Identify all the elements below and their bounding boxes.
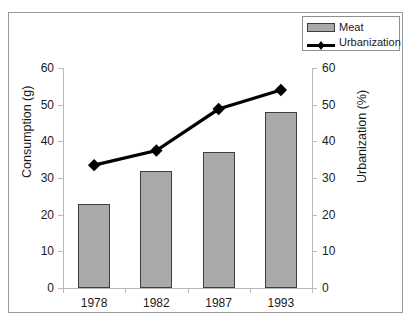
y-tick-label-right: 0 bbox=[322, 282, 329, 294]
y-tick-label-left: 30 bbox=[41, 172, 54, 184]
urbanization-line-path bbox=[94, 90, 281, 165]
y-tick-label-right: 10 bbox=[322, 245, 335, 257]
y-tick-right bbox=[312, 215, 317, 216]
y-tick-right bbox=[312, 141, 317, 142]
x-axis-label-1978: 1978 bbox=[81, 296, 108, 310]
y-tick-label-left: 20 bbox=[41, 209, 54, 221]
y-tick-label-left: 40 bbox=[41, 135, 54, 147]
chart-legend: Meat Urbanization bbox=[302, 16, 400, 51]
urbanization-marker-1993 bbox=[275, 84, 287, 96]
y-tick-label-left: 0 bbox=[47, 282, 54, 294]
y-tick-label-left: 60 bbox=[41, 62, 54, 74]
x-axis-label-1993: 1993 bbox=[268, 296, 295, 310]
y-tick-right bbox=[312, 178, 317, 179]
y-tick-label-right: 20 bbox=[322, 209, 335, 221]
x-tick bbox=[63, 288, 64, 293]
y-tick-label-right: 60 bbox=[322, 62, 335, 74]
x-axis-label-1982: 1982 bbox=[143, 296, 170, 310]
chart-container: Meat Urbanization Consumption (g) Urbani… bbox=[0, 0, 411, 322]
x-tick bbox=[188, 288, 189, 293]
y-tick-label-left: 50 bbox=[41, 99, 54, 111]
legend-item-meat: Meat bbox=[307, 20, 395, 35]
urbanization-marker-1978 bbox=[88, 159, 100, 171]
bar-swatch-icon bbox=[307, 23, 335, 32]
legend-label-meat: Meat bbox=[339, 22, 363, 33]
y-axis-left-title: Consumption (g) bbox=[20, 86, 34, 178]
x-tick bbox=[125, 288, 126, 293]
plot-area: 0102030405060 0102030405060 197819821987… bbox=[63, 68, 312, 288]
y-tick-label-right: 40 bbox=[322, 135, 335, 147]
line-diamond-swatch-icon bbox=[307, 37, 335, 48]
y-tick-label-right: 50 bbox=[322, 99, 335, 111]
x-tick bbox=[250, 288, 251, 293]
legend-label-urbanization: Urbanization bbox=[339, 37, 401, 48]
y-axis-right-title: Urbanization (%) bbox=[355, 90, 369, 183]
y-tick-label-left: 10 bbox=[41, 245, 54, 257]
x-tick bbox=[312, 288, 313, 293]
y-tick-right bbox=[312, 68, 317, 69]
y-tick-right bbox=[312, 251, 317, 252]
y-tick-label-right: 30 bbox=[322, 172, 335, 184]
y-tick-right bbox=[312, 105, 317, 106]
line-series-urbanization bbox=[63, 68, 312, 288]
legend-item-urbanization: Urbanization bbox=[307, 35, 395, 50]
x-axis-label-1987: 1987 bbox=[205, 296, 232, 310]
